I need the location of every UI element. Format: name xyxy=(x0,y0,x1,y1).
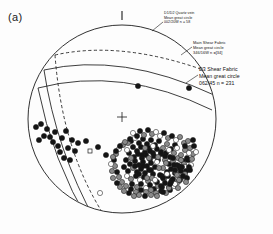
data-point xyxy=(182,143,187,148)
d3-shear-line2: Mean great circle xyxy=(199,73,240,80)
data-point xyxy=(121,164,126,169)
data-point xyxy=(47,134,52,139)
leader-line-2 xyxy=(181,47,192,55)
data-point xyxy=(174,172,179,177)
data-point xyxy=(129,181,134,186)
data-point xyxy=(186,85,191,90)
data-point xyxy=(193,149,198,154)
center-cross xyxy=(117,112,127,122)
data-point xyxy=(154,159,159,164)
data-point xyxy=(136,171,141,176)
data-point xyxy=(114,180,119,185)
main-shear-line3: 346/16W n =[34] xyxy=(193,50,226,55)
data-point xyxy=(139,152,144,157)
data-point xyxy=(138,181,143,186)
data-point xyxy=(126,190,131,195)
data-point xyxy=(164,171,169,176)
data-point xyxy=(187,167,192,172)
data-point xyxy=(146,155,151,160)
data-point xyxy=(97,190,102,195)
data-point xyxy=(161,130,166,135)
data-point xyxy=(128,176,133,181)
data-point xyxy=(159,184,164,189)
data-point xyxy=(164,141,169,146)
data-point xyxy=(72,148,77,153)
quartz-vein-line3: 002/20W n = 58 xyxy=(164,20,194,25)
data-point xyxy=(119,179,124,184)
data-point xyxy=(110,154,115,159)
data-point xyxy=(69,137,74,142)
data-point xyxy=(170,155,175,160)
data-point xyxy=(156,165,161,170)
data-point xyxy=(124,147,129,152)
data-point xyxy=(167,181,172,186)
data-point xyxy=(128,155,133,160)
data-point xyxy=(178,152,183,157)
data-point xyxy=(36,137,41,142)
data-point xyxy=(171,162,176,167)
figure-container: (a) D1/D2 Quartz vein Mean great circle … xyxy=(0,0,273,234)
data-point xyxy=(142,193,147,198)
data-point xyxy=(123,183,128,188)
data-point xyxy=(61,155,66,160)
data-point xyxy=(147,182,152,187)
data-point xyxy=(134,133,139,138)
d3-shear-fabric-label: D3 Shear Fabric Mean great circle 062/45… xyxy=(199,66,240,86)
data-point xyxy=(177,134,182,139)
data-point xyxy=(147,148,152,153)
data-points xyxy=(33,83,198,198)
data-point xyxy=(108,161,113,166)
data-point xyxy=(174,145,179,150)
data-point xyxy=(135,83,140,88)
data-point xyxy=(55,143,60,148)
data-point xyxy=(166,147,171,152)
data-point xyxy=(109,168,114,173)
data-point xyxy=(57,149,62,154)
data-point xyxy=(67,157,72,162)
data-point xyxy=(63,128,68,133)
data-point xyxy=(169,133,174,138)
data-point xyxy=(148,192,153,197)
data-point xyxy=(50,139,55,144)
data-point xyxy=(162,153,167,158)
leader-line-1 xyxy=(152,22,163,31)
d3-shear-line1: D3 Shear Fabric xyxy=(199,66,240,73)
data-point xyxy=(145,127,150,132)
data-point xyxy=(144,175,149,180)
data-point xyxy=(172,167,177,172)
data-point xyxy=(154,193,159,198)
quartz-vein-label: D1/D2 Quartz vein Mean great circle 002/… xyxy=(164,11,194,25)
great-circle-tail-1 xyxy=(55,55,104,215)
data-point xyxy=(160,175,165,180)
data-point xyxy=(103,152,108,157)
data-point xyxy=(121,188,126,193)
data-point xyxy=(176,177,181,182)
great-circle-3 xyxy=(38,81,212,110)
data-point xyxy=(156,138,161,143)
data-point xyxy=(116,174,121,179)
data-point xyxy=(132,163,137,168)
data-point xyxy=(137,128,142,133)
data-point xyxy=(178,157,183,162)
data-point xyxy=(131,193,136,198)
data-point xyxy=(113,148,118,153)
data-point xyxy=(171,150,176,155)
data-point xyxy=(189,156,194,161)
data-point xyxy=(150,143,155,148)
data-point xyxy=(148,137,153,142)
great-circle-1 xyxy=(55,50,209,72)
data-point xyxy=(127,136,132,141)
data-point xyxy=(75,140,80,145)
data-point xyxy=(83,138,88,143)
data-point xyxy=(148,160,153,165)
data-point xyxy=(88,149,92,153)
data-point xyxy=(148,167,153,172)
data-point xyxy=(117,143,122,148)
data-point xyxy=(163,160,168,165)
data-point xyxy=(148,187,153,192)
data-point xyxy=(114,169,119,174)
data-point xyxy=(160,189,165,194)
data-point xyxy=(190,137,195,142)
data-point xyxy=(122,139,127,144)
leader-line-3 xyxy=(186,75,198,83)
